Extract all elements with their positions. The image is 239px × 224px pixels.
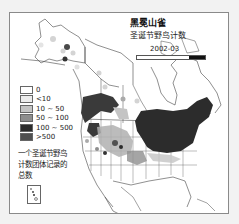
survey-subtitle: 圣诞节野鸟计数	[130, 29, 186, 40]
legend-item: 50 ~ 100	[20, 114, 73, 124]
species-title: 黑冕山雀	[130, 16, 166, 29]
legend-swatch	[20, 86, 33, 94]
legend-label: 100 ~ 500	[36, 124, 73, 132]
legend-item: <10	[20, 95, 73, 105]
legend-swatch	[20, 114, 33, 122]
legend-label: 0	[36, 86, 40, 94]
legend-note: 一个圣诞节野鸟计数团体记录的总数	[18, 148, 68, 181]
season-label: 2002-03	[150, 45, 179, 53]
legend-swatch	[20, 124, 33, 132]
legend: 0 <10 10 ~ 50 50 ~ 100 100 ~ 500 >500	[20, 85, 73, 142]
legend-swatch	[20, 95, 33, 103]
legend-item: 0	[20, 85, 73, 95]
hawaii-inset	[27, 185, 41, 204]
range-100-500-east	[135, 97, 213, 153]
legend-label: >500	[36, 133, 55, 141]
legend-label: <10	[36, 95, 51, 103]
legend-label: 50 ~ 100	[36, 114, 69, 122]
legend-swatch	[20, 133, 33, 141]
hawaii-islands-icon	[28, 186, 40, 203]
legend-item: 10 ~ 50	[20, 104, 73, 114]
alaska-outline	[35, 19, 85, 63]
legend-swatch	[20, 105, 33, 113]
season-timeline-bar	[136, 55, 206, 60]
legend-item: 100 ~ 500	[20, 123, 73, 133]
legend-label: 10 ~ 50	[36, 105, 64, 113]
legend-item: >500	[20, 133, 73, 143]
timeline-fill	[189, 56, 205, 59]
